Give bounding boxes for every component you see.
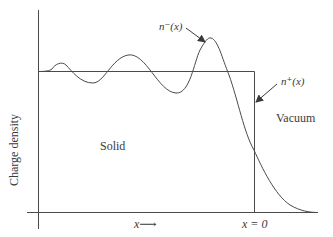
y-axis-label: Charge density bbox=[8, 114, 20, 186]
solid-region-label: Solid bbox=[100, 140, 125, 152]
n-minus-curve bbox=[39, 38, 319, 213]
n-minus-arrow bbox=[186, 28, 205, 42]
right-arrow-icon: ⟶ bbox=[139, 217, 156, 231]
x-direction-label: x⟶ bbox=[134, 218, 157, 230]
n-plus-step-profile bbox=[39, 72, 255, 213]
n-plus-label: n⁺(x) bbox=[281, 76, 305, 87]
n-plus-arrow bbox=[256, 84, 277, 102]
charge-density-diagram: Charge density Solid Vacuum n⁻(x) n⁺(x) … bbox=[0, 0, 333, 237]
vacuum-region-label: Vacuum bbox=[276, 112, 315, 124]
n-minus-label: n⁻(x) bbox=[159, 21, 183, 32]
x-zero-label: x = 0 bbox=[242, 218, 267, 230]
